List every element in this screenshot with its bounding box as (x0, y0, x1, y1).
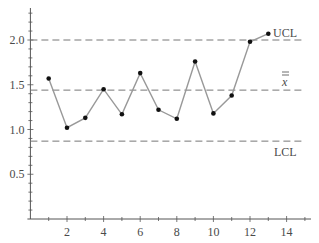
data-point (120, 112, 125, 117)
data-point (229, 93, 234, 98)
y-tick-label: 1.5 (9, 78, 24, 92)
svg-text:x: x (281, 75, 288, 89)
x-tick-label: 8 (174, 225, 180, 239)
data-point (156, 108, 161, 113)
data-point (266, 31, 271, 36)
y-tick-label: 1.0 (9, 123, 24, 137)
x-tick-label: 10 (207, 225, 219, 239)
data-series (46, 31, 270, 130)
axes: 0.51.01.52.02468101214 (9, 8, 311, 239)
data-point (65, 125, 70, 130)
data-point (211, 111, 216, 116)
data-point (46, 76, 51, 81)
y-tick-label: 0.5 (9, 167, 24, 181)
data-point (175, 116, 180, 121)
data-point (101, 87, 106, 92)
x-tick-label: 4 (101, 225, 107, 239)
data-point (193, 59, 198, 64)
data-point (138, 71, 143, 76)
lcl-label: LCL (274, 145, 297, 159)
x-tick-label: 12 (244, 225, 256, 239)
x-tick-label: 2 (64, 225, 70, 239)
data-point (248, 39, 253, 44)
data-point (83, 116, 88, 121)
line-labels: UCL x LCL (273, 26, 297, 159)
x-tick-label: 6 (137, 225, 143, 239)
series-line (49, 34, 269, 128)
x-tick-label: 14 (281, 225, 293, 239)
control-chart: 0.51.01.52.02468101214 UCL x LCL (0, 0, 319, 243)
center-line-label: x (281, 72, 289, 89)
ucl-label: UCL (273, 26, 297, 40)
y-tick-label: 2.0 (9, 33, 24, 47)
